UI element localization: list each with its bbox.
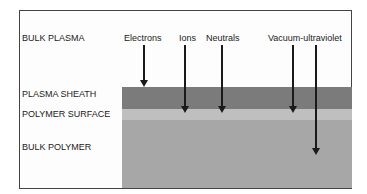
plasma-sheath-layer <box>122 87 352 109</box>
species-label-neutrals: Neutrals <box>206 33 240 43</box>
region-label-bulk-polymer: BULK POLYMER <box>22 142 91 152</box>
species-label-electrons: Electrons <box>124 33 162 43</box>
region-label-plasma-sheath: PLASMA SHEATH <box>22 89 96 99</box>
polymer-surface-layer <box>122 109 352 120</box>
region-label-polymer-surface: POLYMER SURFACE <box>22 109 110 119</box>
species-label-ions: Ions <box>179 33 196 43</box>
vuv-bulk-arrow-icon <box>315 45 317 149</box>
vuv-surface-arrow-icon <box>292 45 294 107</box>
electrons-arrow-icon <box>143 45 145 81</box>
ions-arrow-icon <box>184 45 186 107</box>
neutrals-arrow-icon <box>221 45 223 107</box>
region-label-bulk-plasma: BULK PLASMA <box>22 33 85 43</box>
species-label-vacuum-ultraviolet: Vacuum-ultraviolet <box>268 33 342 43</box>
